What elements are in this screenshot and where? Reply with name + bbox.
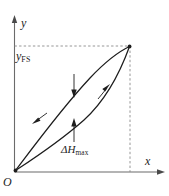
full-scale-point-marker	[128, 45, 132, 49]
y-full-scale-subscript: FS	[21, 55, 30, 64]
x-axis-label: x	[145, 155, 150, 167]
y-axis-arrowhead	[12, 15, 17, 23]
origin-label: O	[3, 176, 12, 188]
direction-arrow-downward-stroke	[32, 113, 47, 124]
max-hysteresis-symbol: ΔH	[61, 143, 75, 155]
origin-point-marker	[14, 169, 18, 173]
y-axis-label: y	[21, 17, 26, 29]
max-hysteresis-label: ΔHmax	[61, 144, 89, 155]
hysteresis-figure: y x O yFS ΔHmax	[0, 0, 169, 196]
max-hysteresis-subscript: max	[75, 149, 88, 157]
y-full-scale-label: yFS	[16, 50, 31, 62]
gap-arrow-lower-head	[71, 118, 76, 127]
x-axis-arrowhead	[157, 169, 165, 174]
